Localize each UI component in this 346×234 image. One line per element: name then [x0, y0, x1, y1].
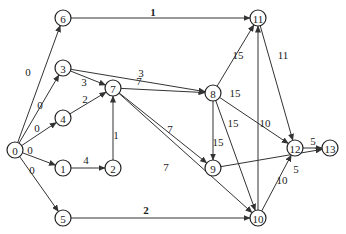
node-0: 0	[7, 142, 23, 158]
node-3: 3	[55, 60, 71, 76]
node-label: 11	[253, 13, 264, 25]
edge-weight-6-11: 1	[150, 6, 156, 18]
node-11: 11	[250, 10, 266, 26]
node-8: 8	[205, 85, 221, 101]
node-2: 2	[105, 160, 121, 176]
node-label: 5	[60, 213, 66, 225]
edge-weight-3-7: 3	[81, 76, 87, 88]
node-label: 6	[60, 13, 66, 25]
edge-weight-12-13: 5	[310, 135, 316, 147]
node-label: 3	[60, 63, 66, 75]
edge-weight-9-13: 5	[293, 163, 299, 175]
node-label: 1	[60, 163, 66, 175]
edge-weight-5-10: 2	[143, 204, 149, 216]
node-label: 4	[60, 113, 66, 125]
node-6: 6	[55, 10, 71, 26]
edge-weight-0-5: 0	[29, 164, 35, 176]
edge-weight-0-4: 0	[34, 122, 40, 134]
edge-weight-7-8: 7	[136, 75, 142, 87]
edge-weight-2-7: 1	[113, 129, 119, 141]
edge-weight-0-6: 0	[25, 66, 31, 78]
node-label: 0	[12, 145, 18, 157]
node-label: 8	[210, 88, 216, 100]
node-13: 13	[322, 140, 338, 156]
node-label: 10	[253, 213, 265, 225]
edge-7-10	[119, 93, 252, 212]
edge-weight-7-9: 7	[167, 123, 173, 135]
edge-7-9	[119, 93, 207, 163]
edge-weight-1-2: 4	[83, 154, 89, 166]
node-label: 13	[325, 143, 337, 155]
edge-0-5	[20, 157, 59, 212]
node-4: 4	[55, 110, 71, 126]
nodes-layer: 012345678910111213	[7, 10, 338, 226]
node-7: 7	[105, 80, 121, 96]
node-label: 2	[110, 163, 116, 175]
edge-4-7	[70, 92, 106, 114]
node-label: 7	[110, 83, 116, 95]
edge-weight-10-11: 10	[260, 117, 272, 129]
node-label: 12	[290, 143, 301, 155]
edge-weight-0-1: 0	[27, 144, 33, 156]
node-10: 10	[250, 210, 266, 226]
edge-weight-4-7: 2	[82, 93, 88, 105]
node-5: 5	[55, 210, 71, 226]
edge-weight-11-12: 11	[278, 49, 289, 61]
edge-weight-8-11: 15	[233, 49, 245, 61]
edge-7-8	[121, 88, 205, 92]
node-1: 1	[55, 160, 71, 176]
node-12: 12	[287, 140, 303, 156]
edge-weight-7-10: 7	[163, 161, 169, 173]
edge-weight-0-3: 0	[37, 99, 43, 111]
edge-weights-layer: 0000013324177715151515510101152	[25, 6, 316, 216]
edge-weight-10-12: 10	[277, 174, 289, 186]
edge-weight-8-9: 15	[213, 136, 225, 148]
network-graph-diagram: 0000013324177715151515510101152 01234567…	[0, 0, 346, 234]
edge-3-7	[70, 71, 105, 85]
edge-weight-8-12: 15	[230, 87, 242, 99]
node-9: 9	[205, 160, 221, 176]
edge-weight-8-10: 15	[228, 117, 240, 129]
node-label: 9	[210, 163, 216, 175]
